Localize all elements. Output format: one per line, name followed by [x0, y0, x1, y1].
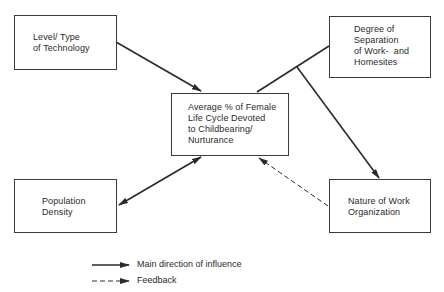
node-separation-label: Degree of Separation of Work- and Homesi… — [354, 24, 409, 68]
arrow-feedback-work-organization-to-center — [259, 158, 328, 206]
arrow-technology-to-center — [116, 42, 201, 91]
legend-main-label: Main direction of influence — [137, 259, 242, 270]
arrow-population-center-bidirectional — [119, 157, 201, 205]
node-technology-label: Level/ Type of Technology — [33, 32, 90, 54]
line-center-to-separation — [257, 46, 329, 92]
legend-feedback-label: Feedback — [137, 275, 177, 286]
node-center-label: Average % of Female Life Cycle Devoted t… — [188, 102, 276, 146]
arrow-separation-to-work-organization — [297, 67, 379, 178]
node-population-label: Population Density — [42, 196, 86, 218]
node-work-organization-label: Nature of Work Organization — [348, 196, 410, 218]
